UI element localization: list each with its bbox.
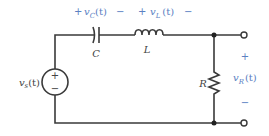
source-minus: − [51,83,59,94]
source-plus: + [51,70,59,81]
inductor-coil [135,30,163,35]
source-label: vs(t) [19,77,40,90]
capacitor-label: C [92,48,100,59]
vr-minus: − [241,97,249,108]
junction-top [212,33,217,38]
vr-plus: + [241,51,249,62]
wire-bottom [55,95,241,123]
vl-plus: + [138,6,146,17]
inductor-label: L [143,44,151,55]
vc-label: vC(t) [84,6,107,20]
terminal-top [241,32,247,38]
vr-label: vR(t) [233,72,257,86]
junction-bottom [212,121,217,126]
resistor-zigzag [209,35,219,123]
circuit-svg: + − vs(t) + vC(t) − C + vL(t) − L R + vR… [0,0,269,136]
vl-label: vL(t) [150,6,174,20]
terminal-bottom [241,120,247,126]
vc-minus: − [116,6,124,17]
rlc-circuit-diagram: + − vs(t) + vC(t) − C + vL(t) − L R + vR… [0,0,269,136]
resistor-label: R [198,78,207,89]
vl-minus: − [184,6,192,17]
wire-left-top [55,35,92,69]
vc-plus: + [74,6,82,17]
